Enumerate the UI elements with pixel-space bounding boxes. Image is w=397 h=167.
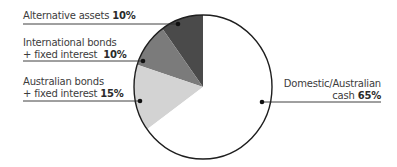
label-text-line2: + fixed interest [23,88,97,99]
label-text: Alternative assets [23,10,109,21]
label-alternative-assets: Alternative assets 10% [23,10,136,22]
label-percent: 15% [100,88,123,99]
label-domestic-cash: Domestic/Australian cash 65% [284,78,381,101]
label-text-line2: + fixed interest [23,49,97,60]
leader-dot-australian [138,99,143,104]
pie-slices [134,15,272,159]
leader-dot-domestic [260,100,265,105]
label-australian-bonds: Australian bonds + fixed interest 15% [23,76,124,99]
label-text-line2: cash [332,90,354,101]
label-percent: 10% [103,49,126,60]
leader-dot-alternative [176,22,181,27]
label-percent: 10% [112,10,135,21]
leader-dot-international [141,59,146,64]
label-text-line1: Domestic/Australian [284,78,381,90]
label-percent: 65% [358,90,381,101]
label-text-line1: Australian bonds [23,76,124,88]
label-international-bonds: International bonds + fixed interest 10% [23,37,127,60]
label-text-line1: International bonds [23,37,127,49]
